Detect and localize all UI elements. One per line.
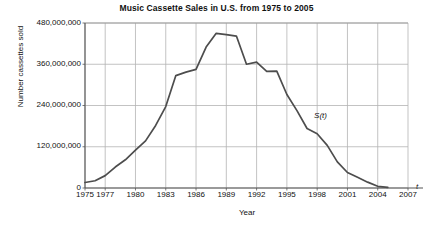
series-path (85, 33, 388, 187)
plot-svg (0, 0, 433, 225)
series-annotation-s-of-t: S(t) (314, 111, 327, 120)
plot-frame (83, 23, 424, 191)
gridlines (85, 23, 408, 188)
chart-container: Music Cassette Sales in U.S. from 1975 t… (0, 0, 433, 225)
series-line-s-of-t (85, 33, 388, 187)
